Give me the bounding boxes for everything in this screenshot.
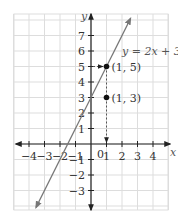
x-tick-label: 4 [150, 150, 157, 163]
x-axis-label: x [170, 146, 177, 159]
point-label: (1, 5) [112, 61, 142, 74]
y-tick-label: −3 [69, 185, 85, 198]
y-axis-label: y [80, 10, 88, 23]
y-tick-label: 7 [78, 30, 85, 43]
y-tick-label: −1 [69, 154, 85, 167]
x-tick-label: 3 [134, 150, 141, 163]
data-point [104, 95, 110, 101]
y-tick-label: 6 [78, 45, 85, 58]
equation-label: y = 2x + 3 [121, 45, 178, 58]
x-tick-label: 2 [119, 150, 126, 163]
x-tick-label: −4 [21, 150, 37, 163]
coordinate-graph: xy−4−3−2−11234−3−2−112345670y = 2x + 3(1… [0, 0, 178, 220]
y-tick-label: 2 [78, 107, 85, 120]
point-label: (1, 3) [112, 92, 142, 105]
y-tick-label: −2 [69, 169, 85, 182]
x-tick-label: −3 [36, 150, 52, 163]
y-tick-label: 1 [78, 123, 85, 136]
x-tick-label: 1 [103, 150, 110, 163]
y-tick-label: 4 [78, 76, 85, 89]
x-tick-label: −2 [52, 150, 68, 163]
origin-label: 0 [97, 148, 104, 161]
y-tick-label: 3 [78, 92, 85, 105]
y-tick-label: 5 [78, 61, 85, 74]
data-point [104, 64, 110, 70]
